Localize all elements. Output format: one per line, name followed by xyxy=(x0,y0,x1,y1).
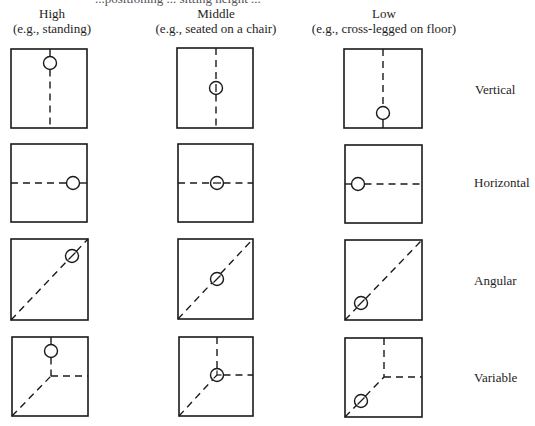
orientation-box-angular-low xyxy=(345,240,422,320)
diagonal-axis-dashed-line xyxy=(12,376,51,416)
diagonal-axis-dashed-line xyxy=(11,261,67,320)
orientation-box-horizontal-middle xyxy=(178,144,253,222)
orientation-box-vertical-middle xyxy=(177,48,253,128)
position-circle-icon xyxy=(352,178,365,191)
position-circle-icon xyxy=(67,177,80,190)
diagonal-axis-dashed-line xyxy=(76,239,88,251)
diagonal-axis-dashed-line xyxy=(221,239,253,274)
diagonal-axis-dashed-line xyxy=(365,377,384,396)
orientation-box-vertical-high xyxy=(11,49,87,128)
diagonal-axis-dashed-line xyxy=(178,283,212,319)
position-circle-icon xyxy=(45,345,58,358)
position-circle-icon xyxy=(377,107,390,120)
diagonal-axis-dashed-line xyxy=(366,240,422,298)
orientation-box-vertical-low xyxy=(344,49,422,128)
orientation-box-angular-high xyxy=(11,239,88,320)
diagonal-axis-dashed-line xyxy=(179,380,213,416)
orientation-box-variable-high xyxy=(12,337,88,416)
diagonal-axis-dashed-line xyxy=(345,405,356,417)
orientation-box-variable-low xyxy=(345,338,422,417)
orientation-diagram-grid xyxy=(0,0,535,426)
orientation-box-horizontal-high xyxy=(11,144,87,222)
orientation-box-horizontal-low xyxy=(345,145,422,223)
position-circle-icon xyxy=(44,57,57,70)
orientation-box-variable-middle xyxy=(179,337,253,416)
orientation-box-angular-middle xyxy=(178,239,253,319)
diagonal-axis-dashed-line xyxy=(345,308,357,320)
